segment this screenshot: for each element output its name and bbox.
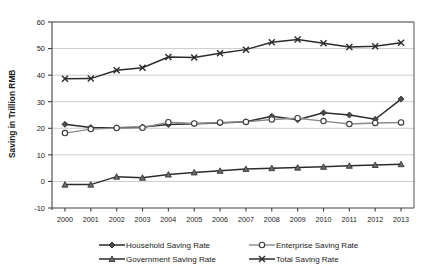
chart-legend: Household Saving RateEnterprise Saving R… — [99, 241, 359, 264]
circle-marker-icon — [88, 126, 93, 131]
x-tick-label: 2008 — [264, 215, 280, 224]
circle-marker-icon — [373, 120, 378, 125]
legend-label: Household Saving Rate — [126, 241, 211, 250]
x-tick-label: 2012 — [367, 215, 383, 224]
x-tick-label: 2004 — [160, 215, 176, 224]
series-group — [62, 37, 404, 188]
y-tick-label: 60 — [37, 18, 45, 27]
x-tick-label: 2000 — [57, 215, 73, 224]
y-tick-label: 30 — [37, 98, 45, 107]
diamond-marker-icon — [346, 112, 352, 118]
x-tick-label: 2006 — [212, 215, 228, 224]
circle-marker-icon — [295, 115, 300, 120]
saving-rate-line-chart: -100102030405060 20002001200220032004200… — [0, 0, 440, 277]
circle-marker-icon — [243, 119, 248, 124]
x-tick-label: 2007 — [238, 215, 254, 224]
circle-marker-icon — [114, 125, 119, 130]
x-tick-label: 2011 — [342, 215, 357, 224]
x-tick-label: 2013 — [393, 215, 409, 224]
circle-marker-icon — [217, 120, 222, 125]
chart-figure: -100102030405060 20002001200220032004200… — [0, 0, 440, 277]
y-tick-label: 40 — [37, 71, 45, 80]
y-axis-title: Saving in Trillion RMB — [7, 70, 17, 158]
y-tick-label: -10 — [34, 204, 45, 213]
legend-item: Enterprise Saving Rate — [249, 241, 359, 250]
legend-item: Household Saving Rate — [99, 241, 211, 250]
circle-marker-icon — [166, 119, 171, 124]
y-axis-title-group: Saving in Trillion RMB — [7, 70, 17, 158]
circle-marker-icon — [269, 117, 274, 122]
circle-marker-icon — [347, 121, 352, 126]
circle-marker-icon — [192, 121, 197, 126]
y-tick-label: 50 — [37, 44, 45, 53]
series-diamond — [62, 96, 404, 131]
x-tick-label: 2010 — [316, 215, 332, 224]
diamond-marker-icon — [62, 121, 68, 127]
x-axis-ticks: 2000200120022003200420052006200720082009… — [57, 208, 409, 224]
x-tick-label: 2005 — [186, 215, 202, 224]
series-circle — [62, 115, 404, 135]
circle-marker-icon — [321, 118, 326, 123]
series-triangle — [62, 161, 404, 187]
y-tick-label: 0 — [41, 177, 45, 186]
legend-item: Government Saving Rate — [99, 255, 216, 264]
circle-marker-icon — [259, 242, 264, 247]
x-tick-label: 2003 — [135, 215, 151, 224]
diamond-marker-icon — [109, 242, 115, 248]
y-tick-label: 10 — [37, 151, 45, 160]
legend-label: Government Saving Rate — [126, 255, 216, 264]
circle-marker-icon — [398, 120, 403, 125]
y-tick-label: 20 — [37, 124, 45, 133]
circle-marker-icon — [140, 125, 145, 130]
legend-label: Total Saving Rate — [276, 255, 339, 264]
x-tick-label: 2001 — [83, 215, 99, 224]
circle-marker-icon — [62, 130, 67, 135]
x-tick-label: 2009 — [290, 215, 306, 224]
x-tick-label: 2002 — [109, 215, 125, 224]
legend-label: Enterprise Saving Rate — [276, 241, 359, 250]
legend-item: Total Saving Rate — [249, 255, 339, 264]
diamond-marker-icon — [321, 110, 327, 116]
y-axis-ticks: -100102030405060 — [34, 18, 52, 213]
